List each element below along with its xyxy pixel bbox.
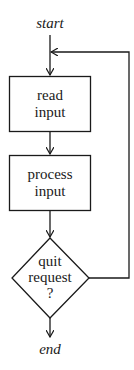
node-quit-label-3: ? [10, 285, 90, 302]
node-process-label-2: input [10, 183, 90, 200]
end-label: end [25, 341, 75, 358]
node-quit-label-2: request [10, 269, 90, 286]
start-label: start [25, 15, 75, 32]
node-quit-label-1: quit [10, 253, 90, 270]
node-read-label-2: input [10, 104, 90, 121]
node-process-label-1: process [10, 166, 90, 183]
node-read-label-1: read [10, 87, 90, 104]
